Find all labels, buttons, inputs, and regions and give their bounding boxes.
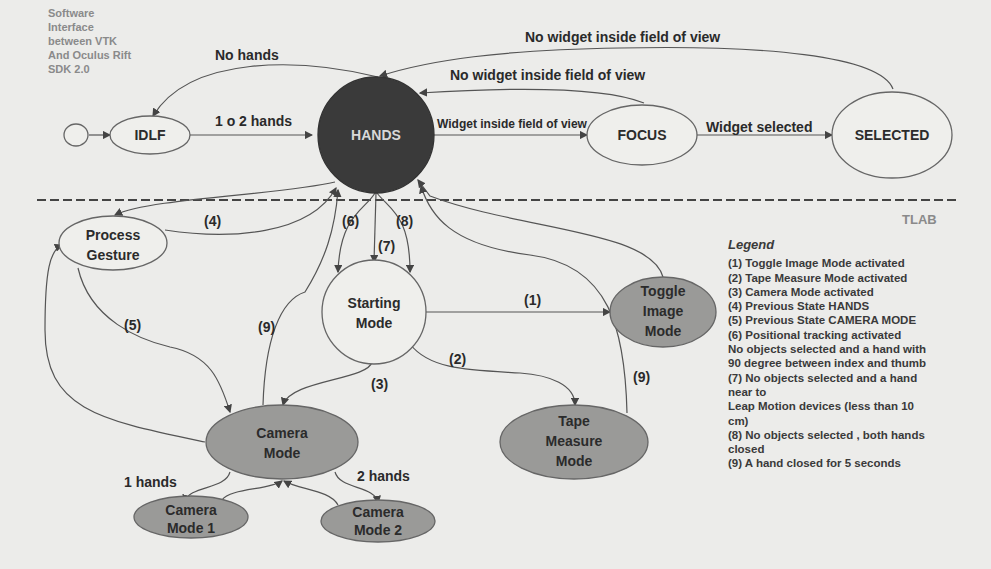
- edge-process-camera: [78, 268, 230, 412]
- node-idle: IDLF: [110, 116, 190, 154]
- svg-text:Tape: Tape: [558, 413, 590, 429]
- edge-label-widget-inside: Widget inside field of view: [437, 117, 588, 131]
- edge-starting-camera: [283, 362, 372, 405]
- legend-item: near to: [728, 385, 990, 399]
- legend-item: 90 degree between index and thumb: [728, 356, 990, 370]
- svg-text:IDLF: IDLF: [134, 127, 166, 143]
- edge-cm1-camera: [222, 481, 282, 500]
- edge-label-3: (3): [371, 376, 388, 392]
- svg-text:Mode: Mode: [356, 315, 393, 331]
- legend: Legend (1) Toggle Image Mode activated (…: [728, 238, 990, 471]
- node-process-gesture: Process Gesture: [59, 216, 167, 270]
- edge-label-9-left: (9): [258, 319, 275, 335]
- svg-text:Mode: Mode: [556, 453, 593, 469]
- legend-item: (7) No objects selected and a hand: [728, 371, 990, 385]
- legend-item: (5) Previous State CAMERA MODE: [728, 313, 990, 327]
- node-toggle-image-mode: Toggle Image Mode: [610, 277, 716, 347]
- edge-label-7: (7): [378, 238, 395, 254]
- edge-starting-tape: [410, 344, 575, 405]
- edge-label-6: (6): [342, 213, 359, 229]
- node-selected: SELECTED: [832, 92, 952, 178]
- edge-label-widget-selected: Widget selected: [706, 119, 812, 135]
- node-start: [64, 124, 88, 146]
- edge-label-1: (1): [524, 292, 541, 308]
- svg-text:Image: Image: [643, 303, 684, 319]
- node-camera-mode-2: Camera Mode 2: [321, 500, 435, 542]
- svg-text:Mode: Mode: [645, 323, 682, 339]
- svg-text:Process: Process: [86, 227, 141, 243]
- legend-title: Legend: [728, 238, 990, 252]
- svg-text:Mode 1: Mode 1: [167, 520, 215, 536]
- svg-text:Mode 2: Mode 2: [354, 522, 402, 538]
- legend-item: (6) Positional tracking activated: [728, 328, 990, 342]
- legend-item: (1) Toggle Image Mode activated: [728, 256, 990, 270]
- svg-text:Camera: Camera: [165, 502, 217, 518]
- svg-text:Starting: Starting: [348, 295, 401, 311]
- edge-label-no-hands: No hands: [215, 47, 279, 63]
- edge-label-no-widget-inner: No widget inside field of view: [450, 67, 645, 83]
- svg-text:Camera: Camera: [256, 425, 308, 441]
- node-focus: FOCUS: [587, 105, 697, 165]
- legend-item: cm): [728, 414, 990, 428]
- legend-item: (4) Previous State HANDS: [728, 299, 990, 313]
- edge-label-2: (2): [449, 351, 466, 367]
- edge-camera-process: [45, 245, 205, 442]
- svg-text:Measure: Measure: [546, 433, 603, 449]
- state-diagram: Software Interface between VTK And Oculu…: [0, 0, 991, 569]
- svg-text:Mode: Mode: [264, 445, 301, 461]
- legend-item: No objects selected and a hand with: [728, 342, 990, 356]
- edge-label-8: (8): [396, 213, 413, 229]
- edge-label-2-hands: 2 hands: [357, 468, 410, 484]
- legend-item: Leap Motion devices (less than 10: [728, 399, 990, 413]
- legend-item: closed: [728, 442, 990, 456]
- svg-text:FOCUS: FOCUS: [618, 127, 667, 143]
- edge-label-1-hands: 1 hands: [124, 474, 177, 490]
- legend-item: (8) No objects selected , both hands: [728, 428, 990, 442]
- edge-process-hands: [165, 188, 336, 234]
- svg-text:HANDS: HANDS: [351, 127, 401, 143]
- edge-label-4: (4): [204, 213, 221, 229]
- node-starting-mode: Starting Mode: [322, 260, 426, 364]
- node-tape-measure-mode: Tape Measure Mode: [500, 405, 648, 479]
- svg-text:Toggle: Toggle: [641, 283, 686, 299]
- legend-item: (3) Camera Mode activated: [728, 285, 990, 299]
- edge-cm2-camera: [284, 481, 338, 505]
- node-camera-mode: Camera Mode: [206, 405, 358, 479]
- edge-label-one-two-hands: 1 o 2 hands: [215, 113, 292, 129]
- edge-hands-starting-7: [374, 193, 376, 262]
- svg-text:Camera: Camera: [352, 504, 404, 520]
- legend-item: (9) A hand closed for 5 seconds: [728, 456, 990, 470]
- edge-focus-hands: [420, 89, 644, 103]
- edge-toggle-hands: [418, 180, 663, 277]
- node-hands: HANDS: [318, 77, 434, 193]
- edge-label-9-right: (9): [633, 369, 650, 385]
- edge-label-no-widget-outer: No widget inside field of view: [525, 29, 720, 45]
- edge-hands-process: [115, 182, 335, 215]
- svg-text:Gesture: Gesture: [87, 247, 140, 263]
- legend-item: (2) Tape Measure Mode activated: [728, 271, 990, 285]
- node-camera-mode-1: Camera Mode 1: [134, 496, 248, 538]
- svg-text:SELECTED: SELECTED: [855, 127, 930, 143]
- edge-label-5: (5): [124, 317, 141, 333]
